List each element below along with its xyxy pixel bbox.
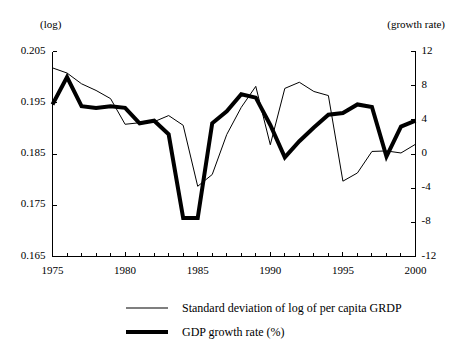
x-tick-label: 1985 — [176, 264, 220, 276]
x-tick-label: 1990 — [248, 264, 292, 276]
legend-swatch-thick-line-icon — [126, 327, 168, 337]
y-tick-label-right: -8 — [422, 214, 459, 226]
series-line-std-dev-log-grdp — [53, 68, 416, 186]
y-tick-label-left: 0.195 — [0, 95, 46, 107]
plot-frame — [53, 52, 416, 257]
chart-legend: Standard deviation of log of per capita … — [126, 296, 446, 344]
series-line-gdp-growth-rate — [53, 77, 416, 218]
x-tick-label: 1975 — [31, 264, 75, 276]
y-tick-label-right: 12 — [422, 44, 459, 56]
y-tick-label-left: 0.205 — [0, 44, 46, 56]
legend-label: Standard deviation of log of per capita … — [182, 301, 402, 316]
y-tick-label-right: 4 — [422, 112, 459, 124]
x-tick-label: 2000 — [394, 264, 438, 276]
y-tick-label-left: 0.185 — [0, 146, 46, 158]
y-tick-label-right: -12 — [422, 249, 459, 261]
y-tick-label-right: -4 — [422, 180, 459, 192]
y-tick-label-right: 8 — [422, 78, 459, 90]
x-tick-label: 1995 — [321, 264, 365, 276]
legend-swatch-thin-line-icon — [126, 303, 168, 313]
chart-figure: (log) (growth rate) 0.1650.1750.1850.195… — [0, 0, 459, 358]
legend-label: GDP growth rate (%) — [182, 325, 285, 340]
x-tick-label: 1980 — [103, 264, 147, 276]
legend-item: GDP growth rate (%) — [126, 320, 446, 344]
y-tick-label-right: 0 — [422, 146, 459, 158]
y-tick-label-left: 0.175 — [0, 197, 46, 209]
y-tick-label-left: 0.165 — [0, 249, 46, 261]
legend-item: Standard deviation of log of per capita … — [126, 296, 446, 320]
